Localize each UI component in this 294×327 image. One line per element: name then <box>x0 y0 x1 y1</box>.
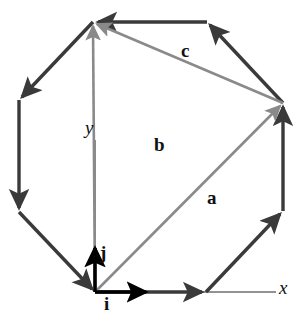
y-axis-label: y <box>85 118 93 137</box>
unit-vector-j-label: j <box>100 243 106 262</box>
vector-octagon-figure <box>0 0 294 327</box>
vector-a-label: a <box>207 188 217 207</box>
edge-upper-right <box>210 25 283 103</box>
vector-c-label: c <box>181 41 189 60</box>
resultant-vectors <box>93 24 283 292</box>
edge-lower-left <box>19 212 92 289</box>
edge-upper-left <box>22 22 93 97</box>
unit-vector-i-label: i <box>104 294 109 313</box>
vector-c <box>97 24 283 103</box>
edge-lower-right <box>206 214 280 292</box>
vector-b-label: b <box>154 135 165 154</box>
x-axis-label: x <box>279 278 287 297</box>
octagon-edges <box>19 22 283 292</box>
axes-group <box>95 140 276 292</box>
vector-a <box>95 106 280 292</box>
